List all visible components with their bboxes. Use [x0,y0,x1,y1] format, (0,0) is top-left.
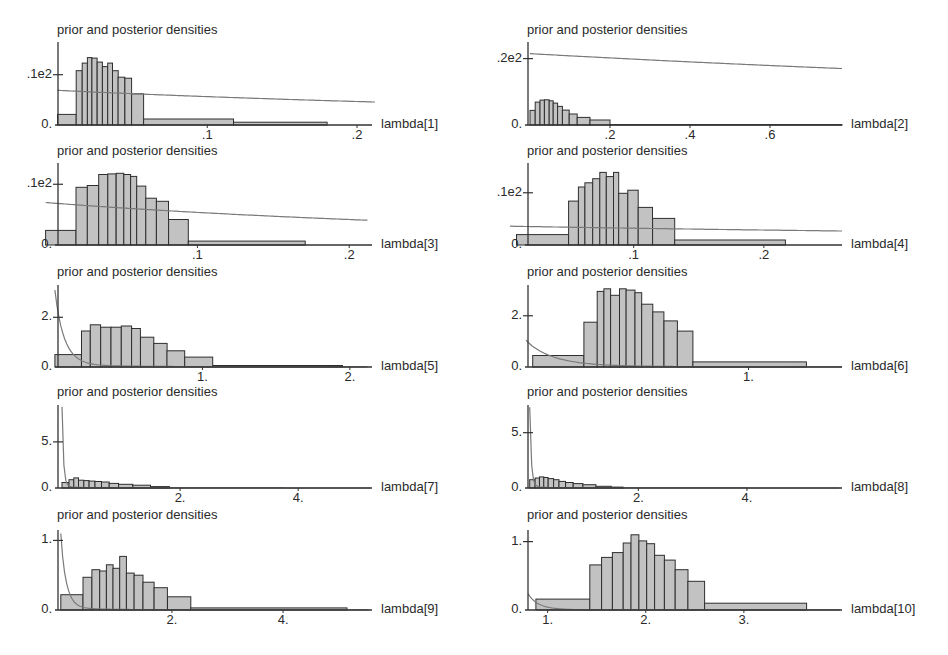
histogram-bar [569,114,577,125]
histogram-bar [540,100,544,125]
histogram-bar [584,322,597,367]
histogram-bar [108,174,116,245]
y-tick-label: 0. [482,236,522,251]
histogram-bar [132,329,141,368]
density-panel-3 [46,163,372,248]
histogram-bar [87,186,98,246]
histogram-bar [675,570,688,610]
panel-title: prior and posterior densities [527,22,687,37]
y-tick-label: .1e2 [12,175,52,190]
panel-title: prior and posterior densities [57,143,217,158]
histogram-bar [76,71,82,125]
histogram-bar [614,172,619,245]
x-tick-label: 4. [278,612,289,627]
prior-density-curve [62,407,370,488]
x-tick-label: .2 [352,127,363,142]
histogram-bar [590,565,602,610]
density-panel-4 [510,163,842,248]
histogram-bar [113,71,119,125]
prior-density-curve [510,226,842,231]
x-tick-label: .2 [344,247,355,262]
variable-label: lambda[4] [851,236,908,251]
histogram-bar [653,312,664,367]
histogram-bar [600,172,607,245]
histogram-bar [631,535,639,610]
y-tick-label: .2e2 [482,50,522,65]
histogram-bar [635,293,642,367]
histogram-bar [611,295,620,367]
x-tick-label: 1. [197,369,208,384]
y-tick-label: 0. [482,479,522,494]
panel-title: prior and posterior densities [57,22,217,37]
y-tick-label: 0. [12,116,52,131]
variable-label: lambda[3] [381,236,438,251]
density-panel-6 [523,285,842,370]
histogram-bar [647,544,655,610]
histogram-bar [74,478,79,488]
density-panel-9 [53,530,372,613]
histogram-bar [612,553,623,610]
histogram-bar [141,337,154,367]
y-tick-label: 0. [482,116,522,131]
histogram-bar [705,603,807,610]
histogram-bar [585,183,593,245]
histogram-bar [590,120,610,125]
histogram-bar [61,595,83,610]
x-tick-label: 2. [633,490,644,505]
histogram-bar [578,187,585,245]
histogram-bar [144,119,234,125]
histogram-bar [558,106,563,125]
histogram-bar [549,101,553,125]
x-tick-label: 2. [344,369,355,384]
histogram-bar [92,570,100,610]
histogram-bar [134,575,143,610]
x-tick-label: .6 [765,127,776,142]
variable-label: lambda[8] [851,479,908,494]
histogram-bar [111,327,121,367]
histogram-bar [619,193,628,245]
x-tick-label: .1 [628,247,639,262]
histogram-bar [100,571,107,610]
histogram-bar [124,175,131,246]
y-tick-label: 5. [12,433,52,448]
x-tick-label: .4 [685,127,696,142]
y-tick-label: 1. [482,533,522,548]
y-tick-label: 0. [12,358,52,373]
panel-title: prior and posterior densities [527,143,687,158]
x-tick-label: 3. [738,612,749,627]
density-panel-2 [523,42,842,128]
histogram-bar [626,290,635,367]
histogram-bar [108,63,113,125]
histogram-bar [90,325,100,367]
histogram-bar [517,235,569,245]
histogram-bar [132,94,144,125]
y-tick-label: 0. [482,601,522,616]
histogram-bar [116,173,124,245]
prior-density-curve [530,407,840,488]
panel-title: prior and posterior densities [57,507,217,522]
panel-title: prior and posterior densities [57,384,217,399]
panel-title: prior and posterior densities [527,264,687,279]
histogram-bar [83,577,92,610]
density-panel-7 [53,405,372,491]
histogram-bar [530,110,535,125]
histogram-bar [533,356,584,368]
histogram-bar [548,479,553,488]
y-tick-label: 0. [12,236,52,251]
histogram-bar [623,543,631,610]
y-tick-label: .1e2 [12,66,52,81]
variable-label: lambda[2] [851,116,908,131]
histogram-bar [125,78,132,125]
y-tick-label: 0. [482,358,522,373]
x-tick-label: 1. [542,612,553,627]
histogram-bar [167,351,185,367]
histogram-bar [677,331,693,367]
histogram-bar [597,291,604,367]
x-tick-label: .1 [202,127,213,142]
histogram-bar [639,541,647,610]
density-panel-1 [53,42,375,128]
histogram-bar [562,110,569,125]
histogram-bar [593,179,600,245]
histogram-bar [102,67,107,125]
y-tick-label: 0. [12,479,52,494]
